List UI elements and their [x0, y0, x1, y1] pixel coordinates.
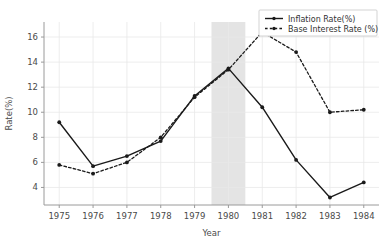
y-axis-title: Rate(%) [4, 96, 14, 130]
x-tick-label: 1978 [150, 211, 172, 221]
y-tick-label: 12 [27, 82, 38, 92]
x-tick-label: 1984 [353, 211, 375, 221]
legend-label-1: Base Interest Rate (%) [288, 25, 378, 34]
x-tick-label: 1981 [251, 211, 273, 221]
y-tick-label: 4 [33, 182, 38, 192]
data-point [193, 95, 197, 99]
data-point [91, 164, 95, 168]
data-point [57, 120, 61, 124]
data-point [362, 181, 366, 185]
x-tick-label: 1977 [116, 211, 138, 221]
data-point [260, 105, 264, 109]
x-tick-label: 1976 [82, 211, 104, 221]
y-tick-label: 10 [27, 107, 38, 117]
data-point [159, 135, 163, 139]
data-point [125, 160, 129, 164]
x-axis-title: Year [202, 228, 222, 238]
x-tick-label: 1980 [218, 211, 240, 221]
data-point [227, 68, 231, 72]
data-point [328, 196, 332, 200]
y-tick-label: 6 [33, 157, 38, 167]
data-point [159, 139, 163, 143]
x-tick-label: 1983 [319, 211, 341, 221]
chart-container: 4681012141619751976197719781979198019811… [0, 0, 387, 242]
data-point [125, 154, 129, 158]
y-tick-label: 16 [27, 32, 38, 42]
data-point [91, 172, 95, 176]
y-tick-label: 14 [27, 57, 38, 67]
x-tick-label: 1979 [184, 211, 206, 221]
line-chart: 4681012141619751976197719781979198019811… [0, 0, 387, 242]
data-point [362, 108, 366, 112]
data-point [57, 163, 61, 167]
legend-marker-1 [272, 27, 275, 30]
legend-marker-0 [272, 17, 275, 20]
x-tick-label: 1982 [285, 211, 307, 221]
series-line-0 [59, 68, 364, 197]
x-tick-label: 1975 [48, 211, 70, 221]
data-point [294, 50, 298, 54]
data-point [328, 110, 332, 114]
legend-label-0: Inflation Rate(%) [288, 15, 355, 24]
data-point [294, 158, 298, 162]
series-line-1 [59, 32, 364, 174]
y-tick-label: 8 [33, 132, 38, 142]
